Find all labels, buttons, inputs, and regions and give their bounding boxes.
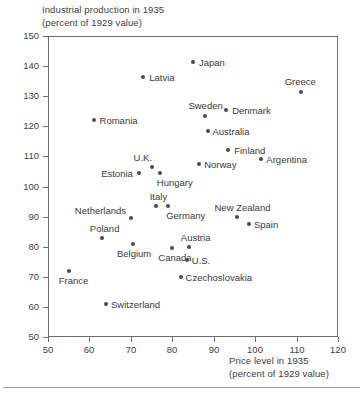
data-point-label: Switzerland — [111, 300, 160, 310]
data-point-label: Spain — [254, 220, 278, 230]
data-point-label: Denmark — [232, 106, 271, 116]
x-axis-title-line1: Price level in 1935 — [229, 355, 309, 366]
data-point-label: Italy — [150, 192, 167, 202]
x-axis-title: Price level in 1935 (percent of 1929 val… — [229, 355, 329, 380]
scatter-plot-figure: Industrial production in 1935 (percent o… — [0, 0, 363, 399]
x-tick-mark — [131, 337, 132, 342]
data-point-label: U.K. — [134, 153, 152, 163]
data-point-marker — [92, 118, 96, 122]
y-tick-label: 90 — [15, 211, 39, 222]
data-point-marker — [141, 75, 145, 79]
data-point-label: Latvia — [149, 73, 174, 83]
x-tick-mark — [214, 337, 215, 342]
data-point-marker — [299, 90, 303, 94]
data-point-marker — [187, 245, 191, 249]
x-tick-label: 90 — [201, 344, 227, 355]
data-point-label: Estonia — [101, 169, 133, 179]
data-point-marker — [206, 129, 210, 133]
data-point-label: Netherlands — [75, 206, 126, 216]
x-tick-label: 50 — [35, 344, 61, 355]
data-point-label: Greece — [285, 77, 316, 87]
y-tick-mark — [43, 307, 48, 308]
data-point-label: Norway — [204, 160, 236, 170]
data-point-label: Finland — [234, 146, 265, 156]
y-tick-mark — [43, 187, 48, 188]
y-tick-label: 110 — [15, 150, 39, 161]
y-tick-label: 80 — [15, 241, 39, 252]
data-point-label: France — [59, 276, 89, 286]
x-tick-label: 110 — [284, 344, 310, 355]
x-tick-label: 80 — [159, 344, 185, 355]
y-tick-mark — [43, 126, 48, 127]
y-tick-label: 60 — [15, 301, 39, 312]
y-tick-mark — [43, 96, 48, 97]
y-tick-label: 100 — [15, 181, 39, 192]
data-point-marker — [129, 216, 133, 220]
y-tick-label: 140 — [15, 60, 39, 71]
x-axis-title-line2: (percent of 1929 value) — [229, 368, 329, 381]
x-tick-mark — [297, 337, 298, 342]
data-point-marker — [131, 242, 135, 246]
x-tick-mark — [89, 337, 90, 342]
data-point-label: Austria — [181, 233, 211, 243]
y-tick-mark — [43, 247, 48, 248]
data-point-marker — [224, 108, 228, 112]
data-point-label: Belgium — [117, 249, 151, 259]
data-point-label: New Zealand — [215, 203, 271, 213]
data-point-label: Hungary — [157, 178, 193, 188]
data-point-label: Australia — [213, 127, 250, 137]
data-point-marker — [158, 171, 162, 175]
data-point-label: Argentina — [266, 155, 307, 165]
x-tick-mark — [338, 337, 339, 342]
data-point-label: Japan — [199, 58, 225, 68]
y-tick-label: 150 — [15, 30, 39, 41]
x-tick-label: 70 — [118, 344, 144, 355]
y-axis-title-line2: (percent of 1929 value) — [42, 17, 164, 30]
data-point-marker — [100, 236, 104, 240]
x-tick-label: 100 — [242, 344, 268, 355]
y-tick-label: 70 — [15, 271, 39, 282]
data-point-label: Poland — [90, 224, 120, 234]
data-point-label: Germany — [166, 211, 205, 221]
y-axis-title-line1: Industrial production in 1935 — [42, 4, 164, 15]
y-tick-mark — [43, 36, 48, 37]
data-point-marker — [104, 302, 108, 306]
data-point-marker — [154, 204, 158, 208]
y-axis-title: Industrial production in 1935 (percent o… — [42, 4, 164, 29]
x-tick-mark — [255, 337, 256, 342]
data-point-label: Czechoslovakia — [186, 273, 253, 283]
x-tick-mark — [172, 337, 173, 342]
data-point-marker — [67, 269, 71, 273]
y-tick-mark — [43, 66, 48, 67]
x-tick-label: 120 — [325, 344, 351, 355]
y-tick-label: 130 — [15, 90, 39, 101]
data-point-label: U.S. — [192, 256, 210, 266]
data-point-label: Romania — [100, 116, 138, 126]
data-point-label: Sweden — [188, 101, 222, 111]
x-tick-mark — [48, 337, 49, 342]
x-tick-label: 60 — [76, 344, 102, 355]
y-tick-label: 50 — [15, 331, 39, 342]
data-point-marker — [179, 275, 183, 279]
bottom-divider — [3, 387, 360, 388]
data-point-marker — [150, 165, 154, 169]
y-tick-mark — [43, 277, 48, 278]
y-tick-mark — [43, 156, 48, 157]
data-point-marker — [235, 215, 239, 219]
y-tick-mark — [43, 217, 48, 218]
data-point-marker — [191, 60, 195, 64]
y-tick-label: 120 — [15, 120, 39, 131]
